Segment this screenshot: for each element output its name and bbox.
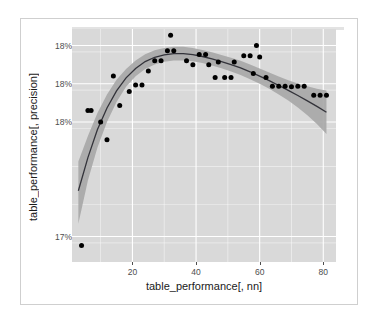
data-point	[152, 58, 157, 63]
data-point	[232, 60, 237, 65]
x-tick-mark	[323, 262, 324, 265]
x-axis: 20406080	[0, 262, 381, 282]
data-point	[117, 103, 122, 108]
plot-panel	[72, 29, 336, 262]
data-point	[248, 53, 253, 58]
x-tick-mark	[196, 262, 197, 265]
x-tick-label: 20	[117, 267, 147, 277]
data-point	[79, 243, 84, 248]
figure-root: table_performance[, precision] 18%18%18%…	[0, 0, 381, 327]
data-point	[203, 52, 208, 57]
data-point	[89, 108, 94, 113]
data-point	[111, 74, 116, 79]
data-point	[222, 75, 227, 80]
data-point	[257, 55, 262, 60]
data-point	[168, 33, 173, 38]
data-point	[241, 53, 246, 58]
x-tick-mark	[132, 262, 133, 265]
data-point	[264, 75, 269, 80]
data-point	[146, 69, 151, 74]
y-tick-label: 18%	[38, 117, 72, 126]
data-point	[302, 84, 307, 89]
y-tick-label: 17%	[38, 232, 72, 241]
data-point	[213, 75, 218, 80]
confidence-band	[78, 47, 326, 224]
data-point	[229, 75, 234, 80]
x-tick-label: 60	[245, 267, 275, 277]
data-point	[104, 137, 109, 142]
data-point	[283, 84, 288, 89]
y-tick-label: 18%	[38, 79, 72, 88]
data-point	[190, 62, 195, 67]
data-point	[276, 84, 281, 89]
x-tick-mark	[260, 262, 261, 265]
plot-svg	[72, 29, 336, 262]
data-point	[127, 89, 132, 94]
data-point	[139, 83, 144, 88]
data-point	[133, 83, 138, 88]
data-point	[295, 84, 300, 89]
data-point	[165, 48, 170, 53]
data-point	[159, 58, 164, 63]
data-point	[311, 93, 316, 98]
data-point	[270, 84, 275, 89]
data-point	[254, 43, 259, 48]
data-point	[216, 60, 221, 65]
data-point	[324, 93, 329, 98]
data-point	[171, 48, 176, 53]
data-point	[206, 62, 211, 67]
y-tick-label: 18%	[38, 41, 72, 50]
x-tick-label: 80	[308, 267, 338, 277]
data-point	[318, 93, 323, 98]
data-point	[98, 119, 103, 124]
data-point	[251, 71, 256, 76]
x-tick-label: 40	[181, 267, 211, 277]
data-point	[289, 84, 294, 89]
x-axis-title: table_performance[, nn]	[72, 280, 336, 292]
data-point	[184, 58, 189, 63]
data-point	[197, 52, 202, 57]
